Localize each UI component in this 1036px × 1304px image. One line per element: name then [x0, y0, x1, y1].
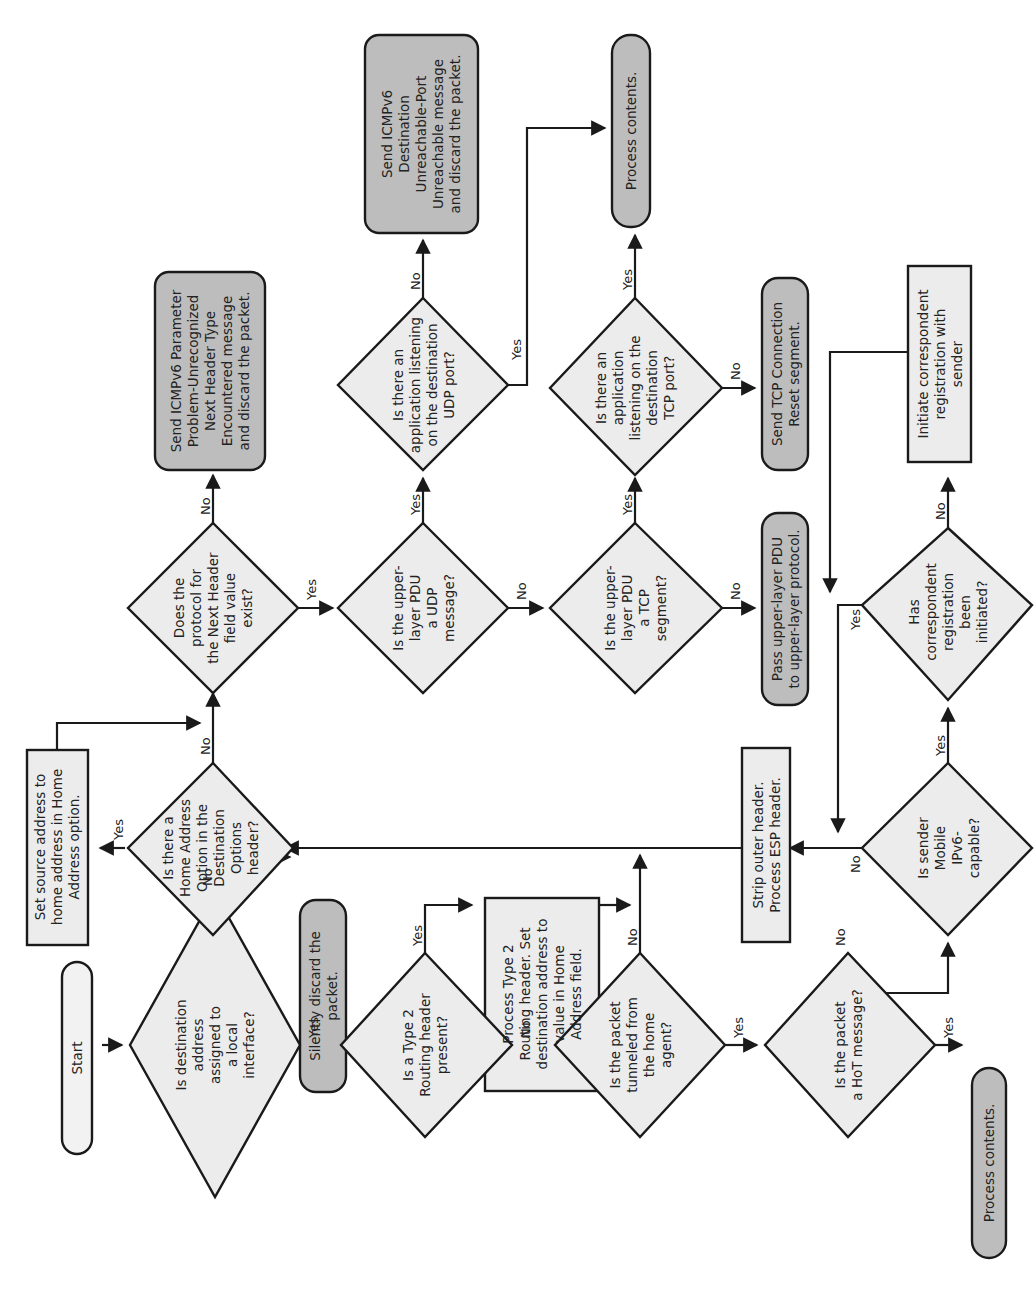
edge-corr-yes — [838, 605, 862, 832]
edge-label-tcp-listen-no: No — [728, 362, 743, 380]
edge-label-home-opt-no: No — [198, 737, 213, 755]
edge-label-dest-local-yes: Yes — [306, 1017, 321, 1039]
edge-label-tunneled-yes: Yes — [731, 1017, 746, 1039]
d-dest-local-label: Is destinationaddressassigned toa locali… — [173, 1000, 257, 1091]
t-icmp-param-label: Send ICMPv6 ParameterProblem-Unrecognize… — [168, 289, 252, 452]
d-hot-label: Is the packeta HoT message? — [832, 989, 865, 1100]
edge-label-tcp-no: No — [728, 582, 743, 600]
edge-set-source-out — [57, 723, 200, 750]
edge-type2-yes — [425, 905, 472, 953]
edge-label-type2-no: No — [518, 1020, 533, 1038]
edge-label-udp-listen-yes: Yes — [509, 339, 524, 361]
start-label: Start — [69, 1042, 85, 1075]
edge-label-tcp-listen-yes: Yes — [620, 269, 635, 291]
edge-label-tunneled-no: No — [625, 928, 640, 946]
t-process-contents-bottom-label: Process contents. — [981, 1104, 997, 1223]
edge-initiate-out — [830, 352, 908, 592]
t-process-contents-top-label: Process contents. — [623, 72, 639, 191]
edge-label-udp-yes: Yes — [408, 494, 423, 516]
edge-label-corr-no: No — [933, 502, 948, 520]
edge-label-next-header-no: No — [198, 497, 213, 515]
edge-label-udp-no: No — [514, 582, 529, 600]
edge-label-tcp-yes: Yes — [620, 494, 635, 516]
edge-label-dest-local-no: No — [200, 868, 215, 886]
edge-label-mobile-no: No — [848, 855, 863, 873]
edge-label-hot-no: No — [833, 928, 848, 946]
t-tcp-reset-label: Send TCP ConnectionReset segment. — [769, 302, 802, 446]
t-pass-upper-label: Pass upper-layer PDUto upper-layer proto… — [769, 530, 802, 689]
edge-label-mobile-yes: Yes — [933, 735, 948, 757]
edge-label-udp-listen-no: No — [408, 272, 423, 290]
edge-label-corr-yes: Yes — [848, 609, 863, 631]
flowchart-canvas: StartIs destinationaddressassigned toa l… — [0, 0, 1036, 1304]
edge-label-hot-yes: Yes — [941, 1017, 956, 1039]
p-strip-outer-label: Strip outer header.Process ESP header. — [750, 777, 783, 913]
edge-label-type2-yes: Yes — [410, 925, 425, 947]
edge-label-home-opt-yes: Yes — [111, 819, 126, 841]
edge-label-next-header-yes: Yes — [304, 579, 319, 601]
